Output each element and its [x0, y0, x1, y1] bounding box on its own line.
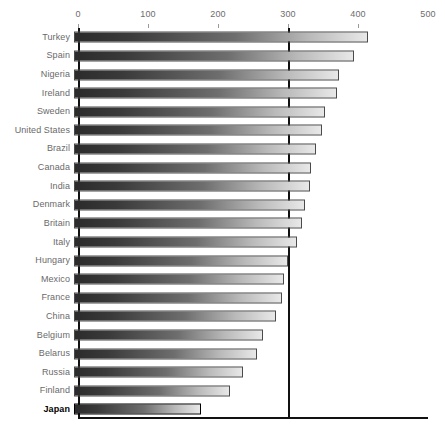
bar-italy: [74, 237, 297, 248]
category-label-brazil: Brazil: [0, 144, 74, 153]
bar-row: France: [0, 289, 445, 308]
category-label-france: France: [0, 293, 74, 302]
bar-finland: [74, 385, 230, 396]
bar-row: Belarus: [0, 344, 445, 363]
bar-row: China: [0, 307, 445, 326]
category-label-italy: Italy: [0, 238, 74, 247]
category-label-china: China: [0, 312, 74, 321]
bar-turkey: [74, 32, 368, 43]
bar-track: [74, 177, 445, 196]
bar-nigeria: [74, 69, 339, 80]
bar-japan: [74, 404, 201, 415]
bar-ireland: [74, 88, 337, 99]
bar-row: United States: [0, 121, 445, 140]
category-label-united-states: United States: [0, 126, 74, 135]
bar-row: Turkey: [0, 28, 445, 47]
bar-track: [74, 307, 445, 326]
bar-track: [74, 289, 445, 308]
bar-hungary: [74, 255, 288, 266]
category-label-belgium: Belgium: [0, 331, 74, 340]
category-label-belarus: Belarus: [0, 349, 74, 358]
bar-track: [74, 214, 445, 233]
bar-track: [74, 84, 445, 103]
bar-track: [74, 382, 445, 401]
bar-track: [74, 102, 445, 121]
bar-track: [74, 47, 445, 66]
bar-mexico: [74, 274, 284, 285]
bar-united-states: [74, 125, 322, 136]
bar-row: Italy: [0, 233, 445, 252]
category-label-hungary: Hungary: [0, 256, 74, 265]
bar-row: Denmark: [0, 195, 445, 214]
bar-row: Brazil: [0, 140, 445, 159]
bar-belarus: [74, 348, 257, 359]
bar-track: [74, 363, 445, 382]
bar-row: Belgium: [0, 326, 445, 345]
bar-row: Japan: [0, 400, 445, 419]
bar-spain: [74, 50, 354, 61]
category-label-sweden: Sweden: [0, 107, 74, 116]
bar-track: [74, 158, 445, 177]
bar-row: Ireland: [0, 84, 445, 103]
bar-row: India: [0, 177, 445, 196]
bar-row: Britain: [0, 214, 445, 233]
category-label-india: India: [0, 182, 74, 191]
category-label-russia: Russia: [0, 368, 74, 377]
bar-rows: TurkeySpainNigeriaIrelandSwedenUnited St…: [0, 28, 445, 419]
bar-row: Canada: [0, 158, 445, 177]
bar-track: [74, 400, 445, 419]
bar-row: Mexico: [0, 270, 445, 289]
category-label-nigeria: Nigeria: [0, 70, 74, 79]
category-label-japan: Japan: [0, 405, 74, 414]
bar-india: [74, 181, 310, 192]
x-axis-tick-label: 0: [75, 9, 80, 19]
category-label-turkey: Turkey: [0, 33, 74, 42]
bar-track: [74, 251, 445, 270]
x-axis-tick-label: 500: [420, 9, 436, 19]
x-axis-tick-label: 100: [140, 9, 156, 19]
bar-belgium: [74, 330, 263, 341]
bar-track: [74, 326, 445, 345]
bar-russia: [74, 367, 243, 378]
bar-row: Russia: [0, 363, 445, 382]
bar-row: Sweden: [0, 102, 445, 121]
bar-britain: [74, 218, 302, 229]
bar-brazil: [74, 143, 316, 154]
bar-france: [74, 292, 282, 303]
bar-row: Finland: [0, 382, 445, 401]
x-axis-tick-label: 300: [280, 9, 296, 19]
bar-track: [74, 344, 445, 363]
x-axis: 0100200300400500: [0, 0, 445, 28]
category-label-britain: Britain: [0, 219, 74, 228]
category-label-mexico: Mexico: [0, 275, 74, 284]
bar-track: [74, 65, 445, 84]
category-label-finland: Finland: [0, 386, 74, 395]
bar-denmark: [74, 199, 305, 210]
bar-row: Spain: [0, 47, 445, 66]
bar-track: [74, 140, 445, 159]
bar-track: [74, 195, 445, 214]
category-label-canada: Canada: [0, 163, 74, 172]
category-label-ireland: Ireland: [0, 89, 74, 98]
bar-track: [74, 28, 445, 47]
x-axis-tick-label: 200: [210, 9, 226, 19]
bar-track: [74, 233, 445, 252]
bar-china: [74, 311, 276, 322]
bar-track: [74, 270, 445, 289]
bar-row: Nigeria: [0, 65, 445, 84]
x-axis-tick-label: 400: [350, 9, 366, 19]
bar-canada: [74, 162, 311, 173]
bar-sweden: [74, 106, 325, 117]
bar-track: [74, 121, 445, 140]
bar-chart: 0100200300400500 TurkeySpainNigeriaIrela…: [0, 0, 445, 426]
bar-row: Hungary: [0, 251, 445, 270]
category-label-denmark: Denmark: [0, 200, 74, 209]
category-label-spain: Spain: [0, 51, 74, 60]
